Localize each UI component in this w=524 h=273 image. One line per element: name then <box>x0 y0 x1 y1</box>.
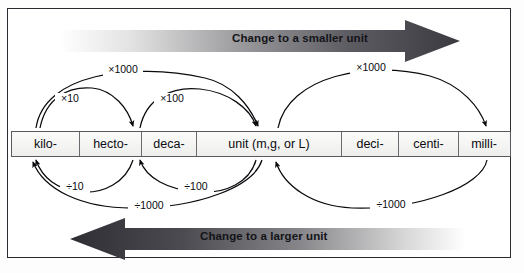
larger-unit-banner-label: Change to a larger unit <box>200 230 328 242</box>
scale-cell-hecto[interactable]: hecto- <box>80 132 142 156</box>
scale-cell-kilo[interactable]: kilo- <box>12 132 80 156</box>
metric-conversion-diagram: Change to a smaller unit Change to a lar… <box>0 0 524 273</box>
scale-cell-milli[interactable]: milli- <box>459 132 509 156</box>
scale-cell-deci[interactable]: deci- <box>342 132 399 156</box>
metric-scale-strip: kilo- hecto- deca- unit (m,g, or L) deci… <box>11 131 511 157</box>
smaller-unit-banner-label: Change to a smaller unit <box>232 32 368 44</box>
scale-cell-unit[interactable]: unit (m,g, or L) <box>197 132 342 156</box>
scale-cell-deca[interactable]: deca- <box>142 132 197 156</box>
scale-cell-centi[interactable]: centi- <box>399 132 459 156</box>
